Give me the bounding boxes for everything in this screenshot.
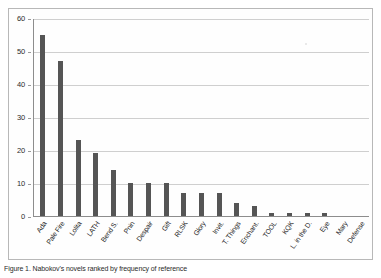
x-axis-tick-label: Gift [160,220,172,233]
bar[interactable] [217,193,222,216]
artifact-speck [305,43,307,45]
bar[interactable] [252,206,257,216]
x-label-slot: Bend S. [104,218,122,270]
bar-slot [34,19,52,216]
bar[interactable] [93,153,98,216]
x-axis-tick-label: TOOL [261,220,278,239]
bar-slot [87,19,105,216]
bar-slot [157,19,175,216]
x-axis-tick-label: RLSK [173,220,189,239]
y-axis-tick-mark [28,52,31,53]
bar[interactable] [305,213,310,216]
x-axis-labels: AdaPale FireLolitaLATHBend S.PninDespair… [33,218,369,270]
figure-container: 0102030405060 AdaPale FireLolitaLATHBend… [0,0,381,278]
bar-slot [122,19,140,216]
bar-slot [210,19,228,216]
bar-series [34,19,369,216]
plot-area [33,19,369,217]
x-label-slot: Despair [139,218,157,270]
bar-slot [281,19,299,216]
y-axis-tick-mark [28,151,31,152]
x-label-slot: LATH [86,218,104,270]
bar-slot [175,19,193,216]
bar[interactable] [164,183,169,216]
bar-slot [334,19,352,216]
x-label-slot: Gift [157,218,175,270]
bar-slot [263,19,281,216]
y-axis-tick-label: 10 [17,180,25,188]
x-label-slot: L. in the D. [298,218,316,270]
bar-slot [69,19,87,216]
bar-slot [228,19,246,216]
x-label-slot: Lolita [68,218,86,270]
y-axis-tick-mark [28,19,31,20]
x-label-slot: RLSK [175,218,193,270]
x-label-slot: Mary [334,218,352,270]
bar[interactable] [234,203,239,216]
bar[interactable] [269,213,274,216]
y-axis-tick-label: 20 [17,147,25,155]
x-label-slot: Enchant. [245,218,263,270]
bar[interactable] [111,170,116,216]
y-axis-tick-label: 60 [17,15,25,23]
x-axis-tick-label: LATH [85,220,101,238]
bar-slot [105,19,123,216]
y-axis-tick-mark [28,217,31,218]
bar-slot [140,19,158,216]
y-axis-tick-label: 40 [17,81,25,89]
x-axis-tick-label: KQK [281,220,295,236]
bar[interactable] [40,35,45,217]
bar[interactable] [58,61,63,216]
x-axis-tick-label: Pnin [123,220,137,235]
chart-frame: 0102030405060 AdaPale FireLolitaLATHBend… [8,8,373,260]
bar-slot [246,19,264,216]
x-label-slot: Glory [192,218,210,270]
bar-slot [52,19,70,216]
bar[interactable] [146,183,151,216]
bar-slot [193,19,211,216]
x-axis-tick-label: Lolita [68,220,83,237]
bar-slot [298,19,316,216]
x-label-slot: Pnin [121,218,139,270]
y-axis-tick-label: 50 [17,48,25,56]
x-label-slot: TOOL [263,218,281,270]
x-axis-tick-label: Glory [192,220,207,237]
bar-slot [351,19,369,216]
y-axis-tick-mark [28,184,31,185]
y-axis-tick-mark [28,85,31,86]
x-axis-tick-label: Eye [318,220,331,234]
y-axis-tick-label: 30 [17,114,25,122]
x-label-slot: Eye [316,218,334,270]
x-axis-tick-label: Invit. [211,220,225,235]
figure-caption: Figure 1. Nabokov's novels ranked by fre… [4,264,376,273]
y-axis: 0102030405060 [11,19,31,217]
bar[interactable] [76,140,81,216]
bar[interactable] [128,183,133,216]
x-label-slot: Pale Fire [51,218,69,270]
bar-slot [316,19,334,216]
y-axis-tick-label: 0 [21,213,25,221]
bar[interactable] [287,213,292,216]
bar[interactable] [322,213,327,216]
x-axis-tick-label: Mary [334,220,349,236]
y-axis-tick-mark [28,118,31,119]
x-axis-tick-label: Ada [35,220,48,234]
plot-wrapper: 0102030405060 AdaPale FireLolitaLATHBend… [9,9,372,259]
x-label-slot: Defense [351,218,369,270]
bar[interactable] [199,193,204,216]
bar[interactable] [181,193,186,216]
